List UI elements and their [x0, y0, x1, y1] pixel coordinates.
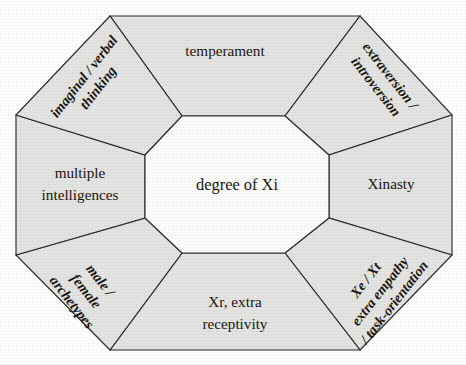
octagon-diagram-svg: degree of Xi temperament extraversion / …	[0, 0, 466, 365]
segment-left-label-line-2: intelligences	[42, 186, 119, 203]
segment-top-label-line-1: temperament	[185, 42, 265, 59]
segment-left-label-line-1: multiple	[55, 164, 106, 181]
segment-bottom-label-line-1: Xr, extra	[208, 293, 262, 310]
center-label: degree of Xi	[196, 175, 278, 194]
segment-right-label-line-1: Xinasty	[367, 175, 415, 192]
octagon-diagram: degree of Xi temperament extraversion / …	[0, 0, 466, 365]
segment-bottom-label-line-2: receptivity	[203, 315, 268, 332]
